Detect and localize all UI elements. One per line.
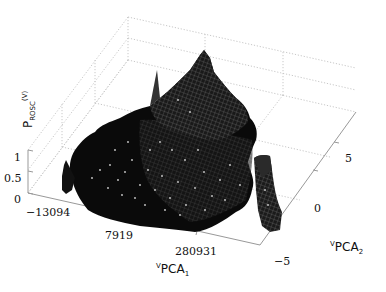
y-tick-5: 5: [345, 153, 352, 164]
x-tick-0: −13094: [26, 207, 70, 218]
z-tick-0: 0: [14, 194, 21, 205]
x-tick-1: 7919: [105, 230, 133, 241]
z-tick-0.5: 0.5: [4, 173, 22, 184]
y-tick-0: 0: [314, 203, 321, 214]
x-tick-2: 280931: [175, 246, 217, 257]
y-axis-label: VPCA2: [330, 241, 363, 256]
z-axis-label: PROSC(V): [22, 91, 37, 128]
surface-mesh: [62, 50, 282, 232]
z-tick-1: 1: [14, 152, 21, 163]
y-tick-neg5: −5: [274, 256, 290, 267]
x-axis-label: VPCA1: [156, 263, 189, 278]
